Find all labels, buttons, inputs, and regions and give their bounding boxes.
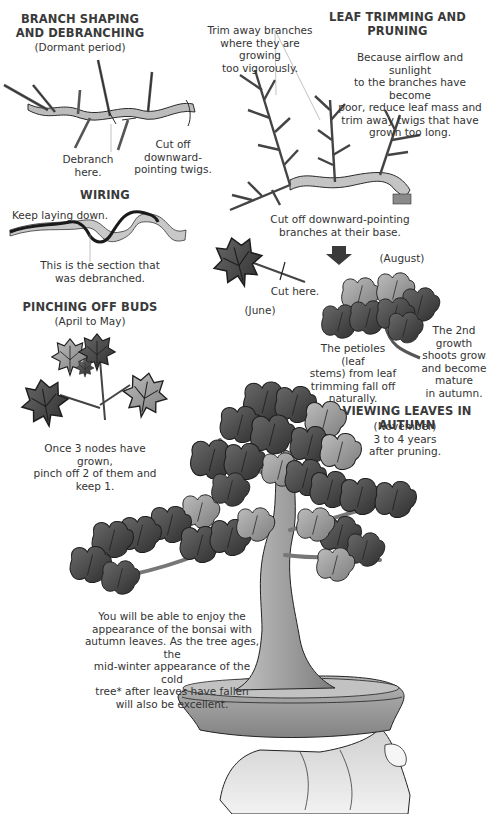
- label-cut-branches-base: Cut off downward-pointing branches at th…: [270, 213, 410, 238]
- label-june: (June): [240, 304, 280, 317]
- arrow-down-icon: [326, 246, 352, 265]
- label-trim-vigorous-branches: Trim away branches where they are growin…: [200, 24, 320, 74]
- pinching-caption: Once 3 nodes have grown, pinch off 2 of …: [25, 442, 165, 492]
- label-airflow-sunlight: Because airflow and sunlight to the bran…: [335, 51, 485, 139]
- branch-shaping-subtitle: (Dormant period): [10, 41, 150, 54]
- label-august: (August): [372, 252, 432, 265]
- label-petioles: The petioles (leaf stems) from leaf trim…: [308, 342, 398, 405]
- pinching-title: PINCHING OFF BUDS: [20, 300, 160, 314]
- june-leaf-drawing: [208, 232, 305, 293]
- wiring-title: WIRING: [70, 188, 140, 202]
- label-second-growth: The 2nd growth shoots grow and become ma…: [420, 324, 488, 399]
- label-debranch-here: Debranch here.: [48, 153, 128, 178]
- pinching-drawing: [18, 334, 171, 430]
- label-cut-here: Cut here.: [270, 285, 320, 298]
- leaf-trimming-title: LEAF TRIMMING AND PRUNING: [310, 10, 485, 38]
- viewing-subtitle: (November) 3 to 4 years after pruning.: [355, 420, 455, 458]
- branch-shaping-title: BRANCH SHAPING AND DEBRANCHING: [10, 12, 150, 40]
- label-keep-laying-down: Keep laying down.: [12, 209, 112, 222]
- viewing-caption: You will be able to enjoy the appearance…: [82, 610, 262, 710]
- label-debranched-section: This is the section that was debranched.: [40, 259, 160, 284]
- pinching-subtitle: (April to May): [20, 315, 160, 328]
- label-cut-downward-twigs: Cut off downward- pointing twigs.: [128, 138, 218, 176]
